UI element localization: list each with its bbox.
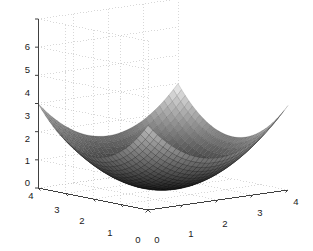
- surface-facet: [265, 122, 273, 131]
- y-tick-mark: [148, 210, 151, 213]
- z-tick-label: 2: [25, 133, 30, 144]
- x-tick-mark: [146, 210, 149, 213]
- y-tick-label: 0: [135, 234, 140, 245]
- surface-facet: [38, 104, 46, 115]
- wall-right-gridline-h: [38, 47, 148, 69]
- z-tick-label: 0: [25, 177, 30, 188]
- z-tick-label: 1: [25, 155, 30, 166]
- x-tick-label: 0: [154, 234, 159, 245]
- x-tick-label: 3: [257, 207, 262, 218]
- x-tick-label: 1: [188, 228, 193, 239]
- z-tick-label: 3: [25, 110, 30, 121]
- surface-mesh: [38, 84, 288, 191]
- y-tick-label: 4: [28, 190, 33, 201]
- y-tick-label: 1: [107, 227, 112, 238]
- y-tick-label: 3: [54, 204, 59, 215]
- surface-plot-axes: 65432104321001234: [0, 0, 313, 251]
- z-tick-label: 6: [25, 41, 30, 52]
- z-tick-label: 4: [25, 87, 30, 98]
- y-tick-label: 2: [79, 215, 84, 226]
- z-tick-label: 5: [25, 64, 30, 75]
- x-tick-label: 2: [222, 218, 227, 229]
- figure-canvas: 65432104321001234: [0, 0, 313, 251]
- x-tick-label: 4: [293, 196, 298, 207]
